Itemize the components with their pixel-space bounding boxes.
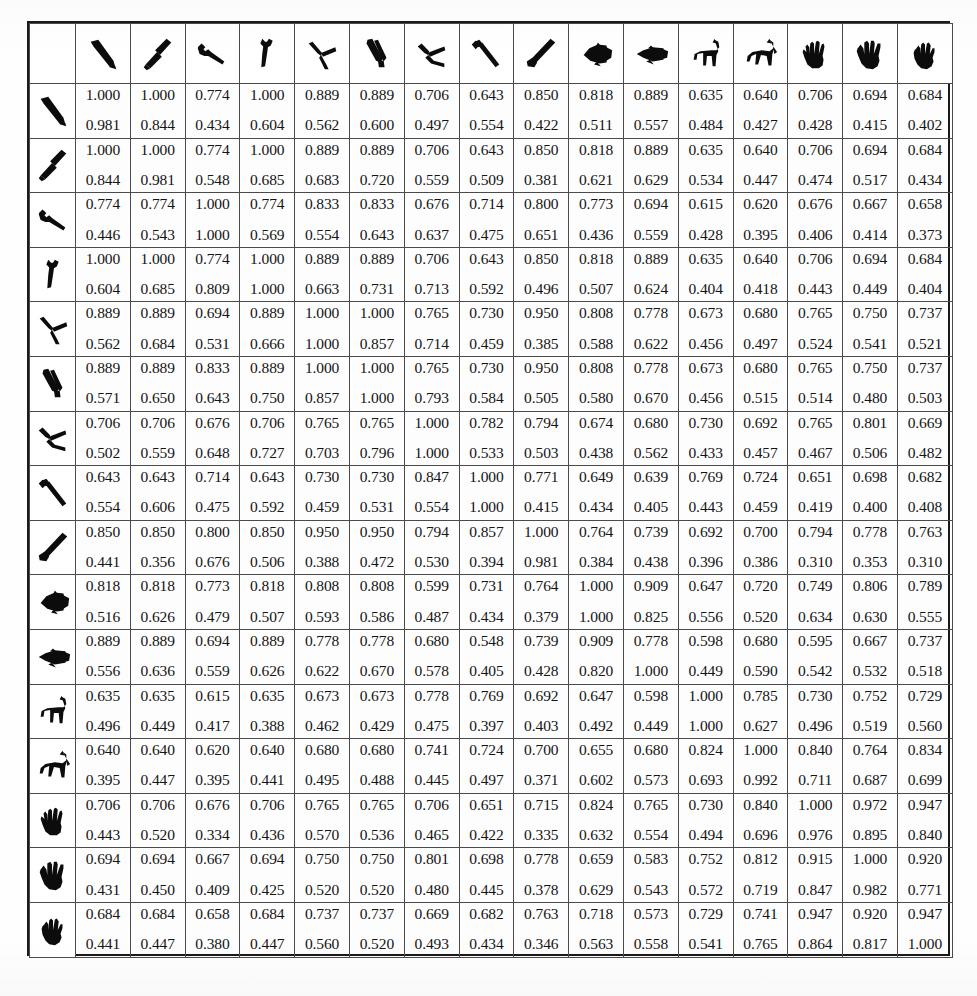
cell-inner: 0.7500.480 — [843, 357, 897, 411]
cell-upper-value: 0.718 — [570, 906, 622, 922]
matrix-cell: 0.8400.711 — [788, 739, 843, 794]
cell-lower-value: 0.651 — [515, 227, 567, 243]
pincers-icon — [30, 412, 75, 466]
matrix-cell: 1.0000.992 — [733, 739, 788, 794]
cell-upper-value: 0.706 — [241, 415, 293, 431]
matrix-cell: 0.6200.395 — [185, 739, 240, 794]
cell-inner: 0.9090.820 — [569, 630, 623, 684]
cell-lower-value: 1.000 — [570, 609, 622, 625]
cell-inner: 0.7640.379 — [514, 575, 568, 629]
cell-lower-value: 0.981 — [515, 554, 567, 570]
cell-lower-value: 0.670 — [351, 663, 403, 679]
cell-inner: 0.7890.555 — [898, 575, 952, 629]
table-row: 1.0000.8441.0000.9810.7740.5481.0000.685… — [30, 138, 953, 193]
row-header-hammer-claw — [30, 466, 76, 521]
cell-lower-value: 0.520 — [351, 936, 403, 952]
cell-upper-value: 0.673 — [680, 305, 732, 321]
cell-lower-value: 0.415 — [844, 117, 896, 133]
cell-upper-value: 0.765 — [789, 305, 841, 321]
cell-upper-value: 0.615 — [187, 688, 239, 704]
cell-upper-value: 0.640 — [132, 742, 184, 758]
cell-lower-value: 0.480 — [406, 882, 458, 898]
matrix-cell: 0.8010.506 — [843, 411, 898, 466]
matrix-cell: 0.7300.459 — [295, 466, 350, 521]
cell-lower-value: 0.825 — [625, 609, 677, 625]
cell-lower-value: 0.456 — [680, 336, 732, 352]
cell-lower-value: 0.693 — [680, 772, 732, 788]
cell-lower-value: 0.497 — [406, 117, 458, 133]
knife-bent-icon — [30, 84, 75, 138]
matrix-cell: 0.7370.560 — [295, 902, 350, 957]
matrix-cell: 1.0000.844 — [130, 84, 185, 139]
cell-inner: 1.0000.981 — [514, 521, 568, 575]
cell-inner: 0.8890.663 — [295, 248, 349, 302]
cell-inner: 0.8120.719 — [734, 848, 788, 902]
cell-lower-value: 0.727 — [241, 445, 293, 461]
cell-inner: 0.7740.548 — [186, 139, 240, 193]
column-header-horse-trotting — [733, 24, 788, 84]
matrix-cell: 0.7500.520 — [295, 848, 350, 903]
column-header-row — [30, 24, 953, 84]
cell-inner: 0.8890.720 — [350, 139, 404, 193]
cell-inner: 0.7370.560 — [295, 903, 349, 957]
cell-upper-value: 0.706 — [789, 87, 841, 103]
matrix-cell: 0.6730.456 — [678, 356, 733, 411]
matrix-cell: 0.6840.447 — [240, 902, 295, 957]
cell-upper-value: 0.694 — [844, 87, 896, 103]
cell-inner: 0.8890.562 — [295, 84, 349, 138]
cell-lower-value: 0.417 — [187, 718, 239, 734]
matrix-cell: 0.7780.622 — [295, 629, 350, 684]
cell-inner: 0.6690.493 — [405, 903, 459, 957]
cell-upper-value: 0.692 — [515, 688, 567, 704]
matrix-cell: 0.9470.864 — [788, 902, 843, 957]
cell-upper-value: 0.599 — [406, 578, 458, 594]
cell-lower-value: 0.404 — [680, 281, 732, 297]
row-header-hand-spread — [30, 848, 76, 903]
table-row: 0.7060.5020.7060.5590.6760.6480.7060.727… — [30, 411, 953, 466]
cell-lower-value: 0.310 — [789, 554, 841, 570]
cell-lower-value: 0.434 — [187, 117, 239, 133]
cell-upper-value: 0.889 — [132, 633, 184, 649]
cell-upper-value: 0.833 — [187, 360, 239, 376]
cell-inner: 0.5830.543 — [624, 848, 678, 902]
matrix-cell: 0.8890.571 — [76, 356, 131, 411]
cell-lower-value: 0.459 — [296, 499, 348, 515]
row-header-hand-open — [30, 793, 76, 848]
cell-inner: 0.6580.380 — [186, 903, 240, 957]
cell-upper-value: 1.000 — [77, 87, 129, 103]
cell-lower-value: 0.857 — [296, 390, 348, 406]
cell-upper-value: 1.000 — [296, 305, 348, 321]
cleaver-icon — [30, 139, 75, 193]
cell-lower-value: 0.447 — [132, 772, 184, 788]
cell-inner: 1.0000.992 — [734, 739, 788, 793]
cell-lower-value: 0.629 — [570, 882, 622, 898]
matrix-cell: 0.9500.385 — [514, 302, 569, 357]
cell-inner: 0.6920.403 — [514, 685, 568, 739]
matrix-cell: 1.0000.976 — [788, 793, 843, 848]
cell-upper-value: 0.615 — [680, 196, 732, 212]
cell-upper-value: 1.000 — [515, 524, 567, 540]
cell-inner: 0.8080.588 — [569, 302, 623, 356]
cell-lower-value: 0.445 — [406, 772, 458, 788]
matrix-cell: 0.6400.418 — [733, 247, 788, 302]
table-row: 0.6940.4310.6940.4500.6670.4090.6940.425… — [30, 848, 953, 903]
matrix-cell: 0.7060.465 — [404, 793, 459, 848]
cell-lower-value: 0.449 — [844, 281, 896, 297]
cell-upper-value: 1.000 — [351, 305, 403, 321]
matrix-cell: 0.7180.563 — [569, 902, 624, 957]
matrix-cell: 0.9200.771 — [897, 848, 952, 903]
cell-inner: 0.8180.516 — [76, 575, 130, 629]
cell-upper-value: 0.673 — [351, 688, 403, 704]
cell-lower-value: 0.982 — [844, 882, 896, 898]
matrix-cell: 0.6430.592 — [240, 466, 295, 521]
cell-upper-value: 0.649 — [570, 469, 622, 485]
matrix-cell: 1.0001.000 — [349, 356, 404, 411]
cell-upper-value: 0.640 — [241, 742, 293, 758]
cell-inner: 0.7140.475 — [460, 193, 514, 247]
cell-upper-value: 0.840 — [789, 742, 841, 758]
cell-lower-value: 0.418 — [735, 281, 787, 297]
matrix-cell: 0.6840.447 — [130, 902, 185, 957]
cell-inner: 0.6350.388 — [240, 685, 294, 739]
cell-lower-value: 0.670 — [625, 390, 677, 406]
cell-lower-value: 0.714 — [406, 336, 458, 352]
